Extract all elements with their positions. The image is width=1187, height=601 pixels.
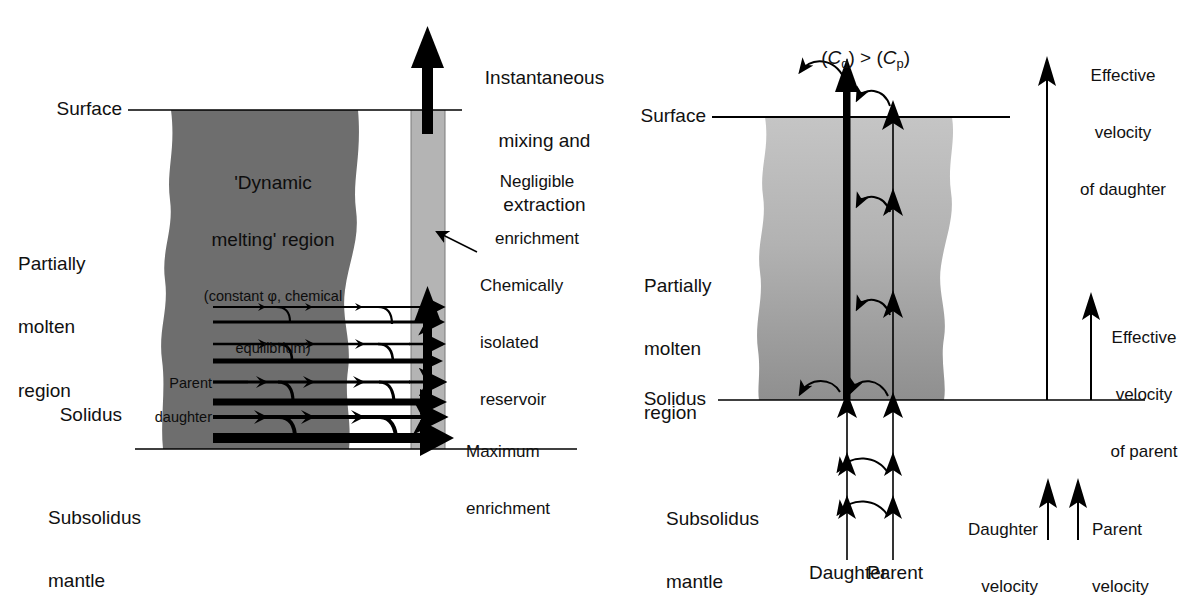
left-subsolidus-line2: mantle — [48, 570, 218, 591]
left-subsolidus-line1: Subsolidus — [48, 507, 218, 528]
left-partially-molten-line1: Partially — [18, 253, 148, 274]
parent-velocity-in-solid-label: Parent velocity in solid — [1092, 482, 1187, 601]
figure-root: Surface Partially molten region Solidus … — [0, 0, 1187, 601]
im-line1: Instantaneous — [462, 67, 627, 88]
effective-velocity-daughter-arrow — [1038, 56, 1056, 400]
right-partially-molten-label: Partially molten region — [644, 232, 764, 466]
left-subsolidus-mantle-label: Subsolidus mantle — [48, 464, 218, 601]
ci-sub2: p — [896, 56, 903, 71]
rss-line1: Subsolidus — [666, 508, 826, 529]
dmr-line2: melting' region — [178, 229, 368, 250]
pvs-line1: Parent — [1092, 520, 1187, 539]
effective-velocity-parent-arrow — [1082, 292, 1100, 400]
left-partially-molten-line2: molten — [18, 316, 148, 337]
left-surface-label: Surface — [10, 98, 122, 119]
right-partial-melt-region-shape — [750, 117, 960, 400]
ci-operator: > — [855, 47, 877, 68]
evd-line2: velocity — [1062, 123, 1184, 142]
legend-daughter-solid-arrow — [1039, 478, 1057, 540]
maximum-enrichment-label: Maximum enrichment — [466, 404, 616, 556]
daughter-inline-label: daughter — [130, 409, 212, 425]
ci-c1: C — [827, 47, 841, 68]
parent-inline-label: Parent — [140, 375, 212, 391]
evp-line1: Effective — [1102, 328, 1186, 347]
right-surface-label: Surface — [606, 105, 706, 126]
ne-line1: Negligible — [462, 172, 612, 191]
ci-c2: C — [883, 47, 897, 68]
rpm-line2: molten — [644, 338, 764, 359]
right-parent-column-label: Parent — [856, 562, 934, 583]
dynamic-melting-region-label: 'Dynamic melting' region (constant φ, ch… — [178, 136, 368, 392]
evd-line3: of daughter — [1062, 180, 1184, 199]
evp-line2: velocity — [1102, 385, 1186, 404]
legend-parent-solid-arrow — [1069, 478, 1087, 540]
ci-close2: ) — [904, 47, 910, 68]
evd-line1: Effective — [1062, 66, 1184, 85]
left-partially-molten-line3: region — [18, 380, 148, 401]
effective-velocity-daughter-label: Effective velocity of daughter — [1062, 28, 1184, 237]
dmr-line4: equilibrium) — [178, 340, 368, 356]
dmr-line1: 'Dynamic — [178, 172, 368, 193]
daughter-velocity-in-solid-label: Daughter velocity in solid — [928, 482, 1038, 601]
dmr-line3: (constant φ, chemical — [178, 288, 368, 304]
effective-velocity-parent-label: Effective velocity of parent — [1102, 290, 1186, 499]
cir-line2: isolated — [480, 333, 630, 352]
me-line1: Maximum — [466, 442, 616, 461]
dvs-line1: Daughter — [928, 520, 1038, 539]
right-solidus-label: Solidus — [606, 388, 706, 409]
me-line2: enrichment — [466, 499, 616, 518]
evp-line3: of parent — [1102, 442, 1186, 461]
pvs-line2: velocity — [1092, 577, 1187, 596]
cir-line1: Chemically — [480, 276, 630, 295]
dvs-line2: velocity — [928, 577, 1038, 596]
left-solidus-label: Solidus — [10, 404, 122, 425]
rpm-line1: Partially — [644, 275, 764, 296]
concentration-inequality-title: (Cd) > (Cp) — [790, 26, 920, 93]
